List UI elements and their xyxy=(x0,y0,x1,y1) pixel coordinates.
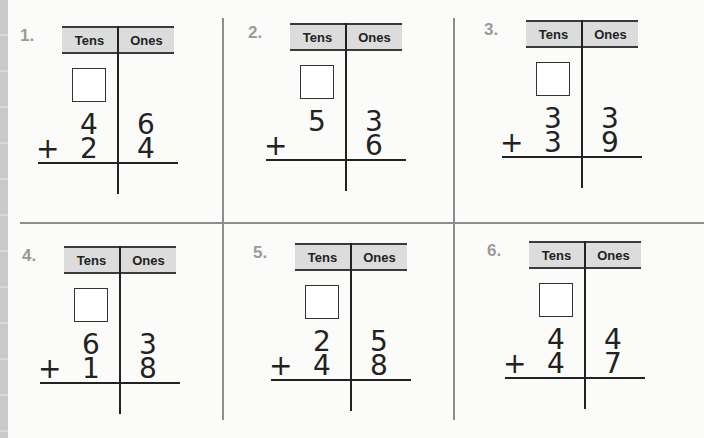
bottom-tens-digit: 4 xyxy=(302,349,342,382)
plus-sign: + xyxy=(36,132,59,165)
bottom-ones-digit: 4 xyxy=(126,132,166,165)
bottom-ones-digit: 9 xyxy=(590,126,630,159)
place-value-chart: Tens Ones 5 3 + 6 xyxy=(260,23,440,193)
sum-line xyxy=(502,156,642,158)
regroup-answer-box[interactable] xyxy=(74,288,108,322)
ones-header: Ones xyxy=(581,22,638,46)
answer-tens-area[interactable] xyxy=(529,381,583,409)
column-separator xyxy=(350,243,352,411)
column-separator xyxy=(345,23,347,191)
problem-1: 1. Tens Ones 4 6 + 2 4 xyxy=(20,26,240,226)
plus-sign: + xyxy=(38,352,61,385)
tens-header: Tens xyxy=(62,28,117,52)
column-separator xyxy=(119,246,121,414)
place-value-chart: Tens Ones 4 6 + 2 4 xyxy=(32,26,212,196)
ones-header: Ones xyxy=(119,248,176,272)
ones-header: Ones xyxy=(345,25,402,49)
bottom-ones-digit: 8 xyxy=(128,352,168,385)
problem-6: 6. Tens Ones 4 4 + 4 7 xyxy=(487,241,704,438)
answer-tens-area[interactable] xyxy=(526,160,580,188)
ones-header: Ones xyxy=(117,28,174,52)
place-value-chart: Tens Ones 3 3 + 3 9 xyxy=(496,20,676,190)
tens-header: Tens xyxy=(290,25,345,49)
bottom-ones-digit: 7 xyxy=(593,347,633,380)
sum-line xyxy=(40,382,180,384)
regroup-answer-box[interactable] xyxy=(539,283,573,317)
answer-tens-area[interactable] xyxy=(290,163,344,191)
place-value-chart: Tens Ones 4 4 + 4 7 xyxy=(499,241,679,411)
tens-header: Tens xyxy=(64,248,119,272)
answer-ones-area[interactable] xyxy=(584,160,638,188)
answer-tens-area[interactable] xyxy=(62,166,116,194)
column-separator xyxy=(117,26,119,194)
bottom-tens-digit: 1 xyxy=(71,352,111,385)
sum-line xyxy=(38,162,178,164)
tens-header: Tens xyxy=(529,243,584,267)
problem-2: 2. Tens Ones 5 3 + 6 xyxy=(248,23,468,223)
problem-5: 5. Tens Ones 2 5 + 4 8 xyxy=(253,243,473,438)
plus-sign: + xyxy=(264,129,287,162)
page-edge-strip xyxy=(0,0,8,438)
top-tens-digit: 5 xyxy=(297,105,337,138)
answer-ones-area[interactable] xyxy=(120,166,174,194)
column-separator xyxy=(584,241,586,409)
tens-header: Tens xyxy=(526,22,581,46)
problem-4: 4. Tens Ones 6 3 + 1 8 xyxy=(22,246,242,438)
place-value-chart: Tens Ones 6 3 + 1 8 xyxy=(34,246,214,416)
plus-sign: + xyxy=(503,347,526,380)
answer-ones-area[interactable] xyxy=(353,383,407,411)
answer-ones-area[interactable] xyxy=(587,381,641,409)
plus-sign: + xyxy=(500,126,523,159)
plus-sign: + xyxy=(269,349,292,382)
ones-header: Ones xyxy=(584,243,641,267)
ones-header: Ones xyxy=(350,245,407,269)
regroup-answer-box[interactable] xyxy=(300,65,334,99)
sum-line xyxy=(271,379,411,381)
sum-line xyxy=(505,377,645,379)
problem-3: 3. Tens Ones 3 3 + 3 9 xyxy=(484,20,704,220)
answer-ones-area[interactable] xyxy=(348,163,402,191)
answer-tens-area[interactable] xyxy=(295,383,349,411)
regroup-answer-box[interactable] xyxy=(305,285,339,319)
bottom-ones-digit: 6 xyxy=(354,129,394,162)
answer-tens-area[interactable] xyxy=(64,386,118,414)
regroup-answer-box[interactable] xyxy=(72,68,106,102)
place-value-chart: Tens Ones 2 5 + 4 8 xyxy=(265,243,445,413)
column-separator xyxy=(581,20,583,188)
bottom-tens-digit: 2 xyxy=(69,132,109,165)
sum-line xyxy=(266,159,406,161)
bottom-tens-digit: 3 xyxy=(533,126,573,159)
answer-ones-area[interactable] xyxy=(122,386,176,414)
bottom-ones-digit: 8 xyxy=(359,349,399,382)
regroup-answer-box[interactable] xyxy=(536,62,570,96)
tens-header: Tens xyxy=(295,245,350,269)
bottom-tens-digit: 4 xyxy=(536,347,576,380)
